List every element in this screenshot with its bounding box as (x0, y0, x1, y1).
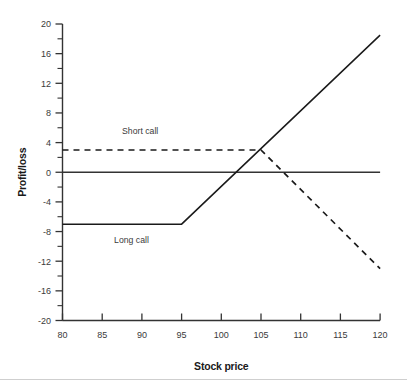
y-tick-label: -8 (43, 227, 51, 237)
x-tick-label: 90 (137, 330, 147, 340)
y-tick-label: -20 (38, 316, 51, 326)
y-tick-label: 4 (46, 138, 51, 148)
x-tick-label: 110 (294, 330, 308, 340)
x-tick-label: 120 (373, 330, 388, 340)
x-tick-label: 100 (214, 330, 229, 340)
y-tick-label: 0 (46, 168, 51, 178)
y-tick-label: 16 (41, 49, 51, 59)
y-tick-label: 20 (41, 19, 51, 29)
short-call-annotation-label: Short call (122, 126, 158, 136)
x-tick-label: 85 (97, 330, 107, 340)
y-tick-label: 12 (41, 79, 51, 89)
chart-figure: 20 16 12 8 4 0 -4 -8 -12 -16 -20 80 (0, 0, 407, 388)
x-axis-tick-labels: 80 85 90 95 100 105 110 115 120 (57, 330, 387, 340)
y-tick-label: -12 (38, 257, 51, 267)
x-tick-label: 80 (57, 330, 67, 340)
y-axis-title: Profit/loss (16, 147, 28, 197)
long-call-annotation-label: Long call (114, 235, 149, 245)
y-tick-label: -4 (43, 197, 51, 207)
y-tick-label: 8 (46, 108, 51, 118)
y-tick-label: -16 (38, 286, 51, 296)
x-axis-title: Stock price (194, 360, 249, 372)
profit-loss-chart: 20 16 12 8 4 0 -4 -8 -12 -16 -20 80 (0, 0, 407, 388)
x-tick-label: 105 (253, 330, 268, 340)
x-tick-label: 115 (333, 330, 347, 340)
x-tick-label: 95 (177, 330, 187, 340)
